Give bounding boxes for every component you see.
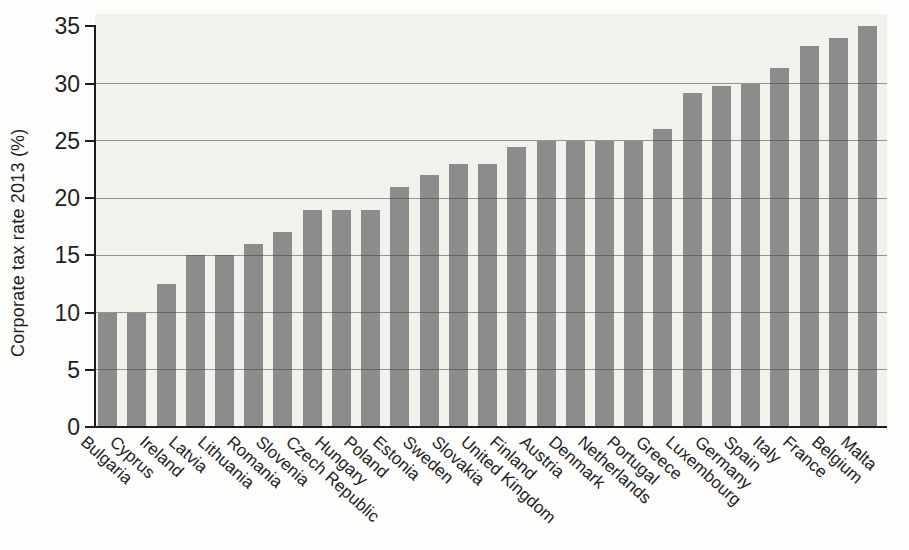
bar	[361, 210, 380, 428]
bar	[653, 129, 672, 427]
y-tick-mark	[85, 312, 95, 314]
y-axis-title: Corporate tax rate 2013 (%)	[8, 128, 29, 357]
bar	[858, 26, 877, 427]
y-tick-label: 5	[30, 359, 80, 382]
bar	[332, 210, 351, 428]
bar	[273, 232, 292, 427]
y-tick-mark	[85, 197, 95, 199]
y-tick-label: 0	[30, 416, 80, 439]
bar	[303, 210, 322, 428]
bar	[478, 164, 497, 427]
gridline	[95, 198, 887, 199]
y-tick-label: 10	[30, 302, 80, 325]
x-axis-line	[85, 426, 887, 428]
bar	[215, 255, 234, 427]
y-tick-mark	[85, 369, 95, 371]
bar	[390, 187, 409, 427]
bar	[683, 93, 702, 427]
bar	[566, 141, 585, 427]
bar	[420, 175, 439, 427]
y-tick-mark	[85, 25, 95, 27]
gridline	[95, 312, 887, 313]
y-axis-line	[94, 25, 96, 427]
gridline	[95, 255, 887, 256]
y-tick-label: 35	[30, 15, 80, 38]
y-tick-mark	[85, 83, 95, 85]
bar	[157, 284, 176, 427]
y-tick-label: 30	[30, 73, 80, 96]
bar	[712, 86, 731, 427]
bar	[595, 141, 614, 427]
bar	[449, 164, 468, 427]
bar	[244, 244, 263, 427]
gridline	[95, 140, 887, 141]
bar	[770, 68, 789, 428]
gridline	[95, 83, 887, 84]
gridline	[95, 369, 887, 370]
bar	[186, 255, 205, 427]
y-tick-mark	[85, 140, 95, 142]
y-tick-label: 20	[30, 187, 80, 210]
bar	[537, 141, 556, 427]
bar	[624, 141, 643, 427]
y-tick-mark	[85, 254, 95, 256]
corporate-tax-rate-bar-chart: Corporate tax rate 2013 (%) 051015202530…	[0, 0, 909, 550]
y-tick-label: 15	[30, 244, 80, 267]
y-tick-label: 25	[30, 130, 80, 153]
bar	[507, 147, 526, 428]
